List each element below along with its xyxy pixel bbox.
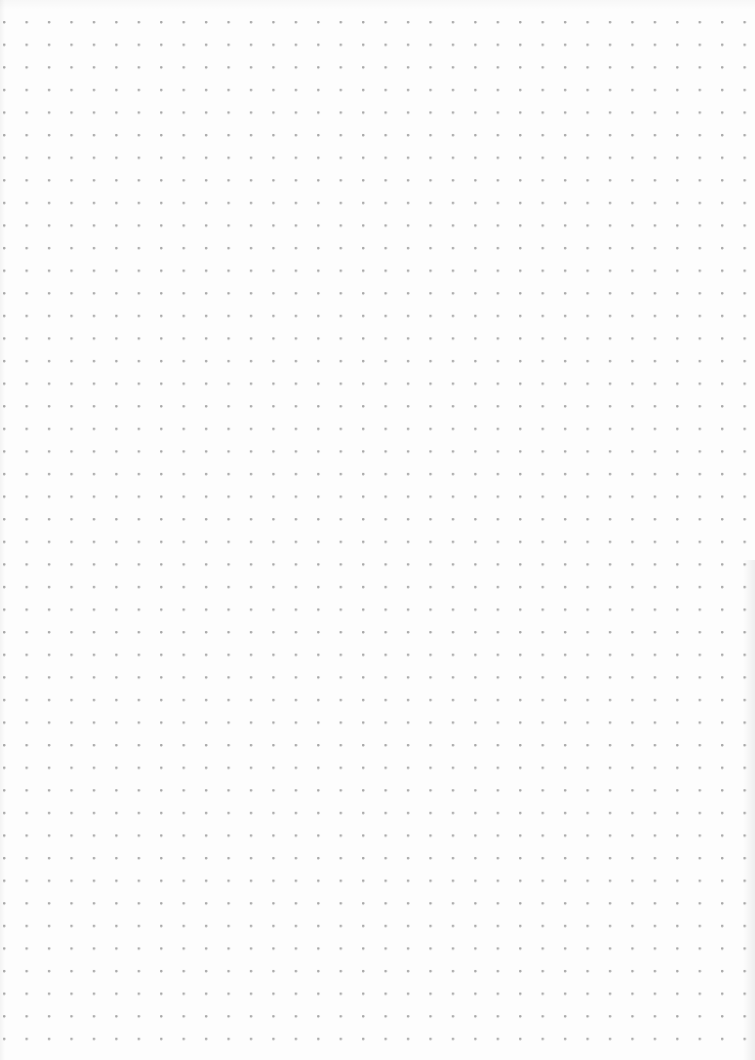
dot-grid-paper	[0, 0, 755, 1060]
top-edge-shading	[0, 0, 755, 10]
dot-grid	[3, 21, 755, 1060]
right-edge-shadow	[743, 560, 755, 1060]
